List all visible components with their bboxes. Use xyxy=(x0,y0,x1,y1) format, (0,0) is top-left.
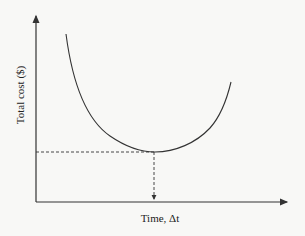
x-axis-label: Time, Δt xyxy=(141,212,179,224)
y-axis-label: Total cost ($) xyxy=(14,65,27,124)
total-cost-curve xyxy=(66,34,231,152)
chart-svg: Total cost ($) Time, Δt xyxy=(0,0,305,236)
chart-figure: Total cost ($) Time, Δt xyxy=(0,0,305,236)
